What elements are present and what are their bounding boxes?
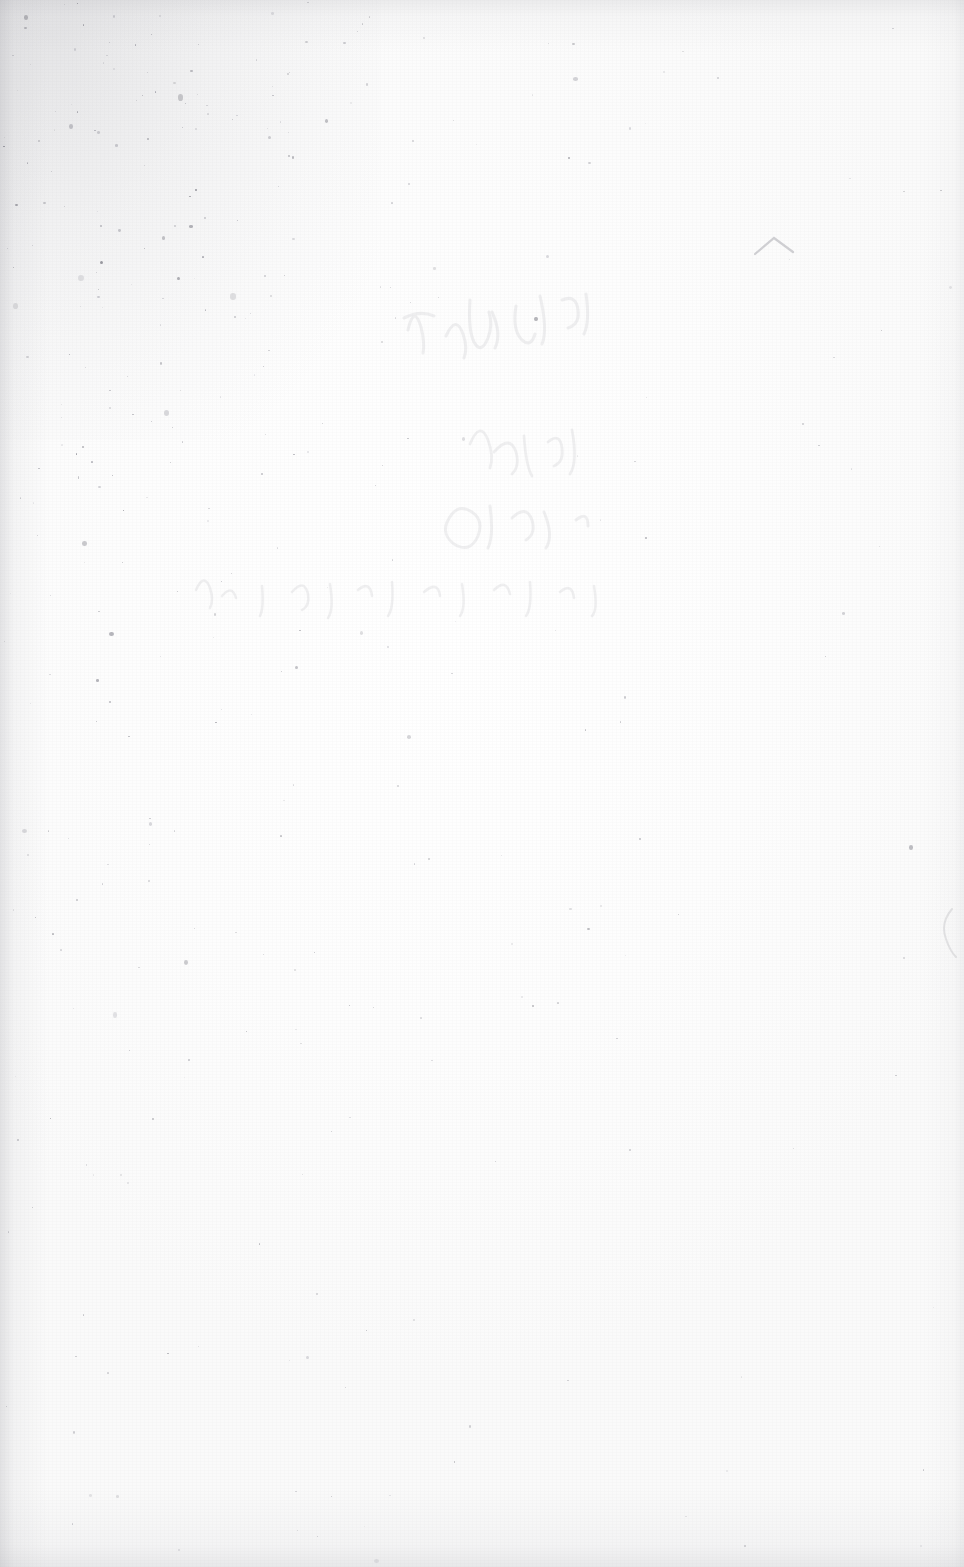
- paper-grain-texture: [0, 0, 964, 1567]
- scanned-page: [0, 0, 964, 1567]
